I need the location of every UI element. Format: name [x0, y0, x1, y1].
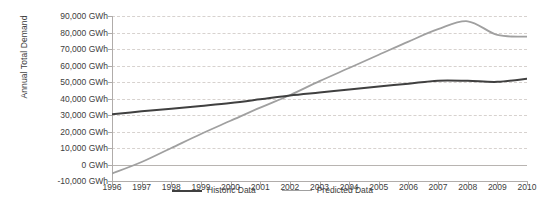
series-lines — [112, 16, 527, 181]
legend-swatch-icon — [172, 190, 202, 192]
y-tick-mark — [108, 33, 112, 34]
y-tick-label: 80,000 GWh — [20, 29, 108, 38]
y-tick-label: 20,000 GWh — [20, 128, 108, 137]
y-tick-mark — [108, 82, 112, 83]
y-tick-label: 90,000 GWh — [20, 12, 108, 21]
series-line — [112, 21, 527, 173]
series-line — [112, 79, 527, 114]
y-tick-mark — [108, 115, 112, 116]
y-tick-label: 0 GWh — [20, 161, 108, 170]
legend-entry[interactable]: Predicted Data — [282, 186, 373, 195]
plot-area — [112, 16, 527, 181]
legend-label: Historic Data — [207, 186, 256, 195]
y-tick-mark — [108, 148, 112, 149]
y-tick-mark — [108, 132, 112, 133]
legend-entry[interactable]: Historic Data — [172, 186, 256, 195]
y-axis-tick-labels: 90,000 GWh80,000 GWh70,000 GWh60,000 GWh… — [20, 10, 108, 186]
y-tick-mark — [108, 165, 112, 166]
y-tick-label: 60,000 GWh — [20, 62, 108, 71]
y-tick-label: 30,000 GWh — [20, 111, 108, 120]
chart-container: Annual Total Demand 90,000 GWh80,000 GWh… — [0, 0, 545, 212]
legend-label: Predicted Data — [317, 186, 373, 195]
legend-swatch-icon — [282, 190, 312, 191]
y-tick-label: 70,000 GWh — [20, 45, 108, 54]
y-tick-label: 40,000 GWh — [20, 95, 108, 104]
y-tick-mark — [108, 49, 112, 50]
y-tick-mark — [108, 16, 112, 17]
y-tick-label: 50,000 GWh — [20, 78, 108, 87]
y-tick-label: 10,000 GWh — [20, 144, 108, 153]
y-tick-mark — [108, 99, 112, 100]
chart-legend: Historic DataPredicted Data — [0, 186, 545, 195]
y-tick-mark — [108, 66, 112, 67]
